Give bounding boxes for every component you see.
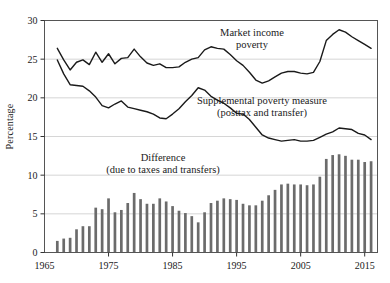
svg-text:0: 0 (33, 247, 38, 258)
svg-text:25: 25 (28, 54, 38, 65)
difference-label-line2: (due to taxes and transfers) (0, 164, 358, 176)
market-income-poverty-label: Market income poverty (57, 27, 390, 51)
svg-text:5: 5 (33, 208, 38, 219)
svg-text:2015: 2015 (355, 260, 375, 271)
x-axis-ticks: 196519751985199520052015 (35, 253, 375, 271)
supplemental-poverty-measure-label: Supplemental poverty measure (posttax an… (67, 95, 390, 119)
supplemental-poverty-measure-label-line2: (posttax and transfer) (67, 107, 390, 119)
market-income-poverty-label-line2: poverty (57, 39, 390, 51)
svg-text:1995: 1995 (227, 260, 247, 271)
market-income-poverty-label-line1: Market income (57, 27, 390, 39)
difference-label-line1: Difference (0, 152, 358, 164)
supplemental-poverty-measure-label-line1: Supplemental poverty measure (67, 95, 390, 107)
svg-text:20: 20 (28, 92, 38, 103)
svg-text:1965: 1965 (35, 260, 55, 271)
svg-text:15: 15 (28, 131, 38, 142)
chart-figure: Percentage 051015202530 1965197519851995… (0, 0, 390, 283)
y-axis-ticks: 051015202530 (28, 15, 45, 258)
svg-text:2005: 2005 (291, 260, 311, 271)
difference-label: Difference (due to taxes and transfers) (0, 152, 358, 176)
svg-text:1985: 1985 (163, 260, 183, 271)
svg-text:1975: 1975 (99, 260, 119, 271)
svg-text:30: 30 (28, 15, 38, 26)
